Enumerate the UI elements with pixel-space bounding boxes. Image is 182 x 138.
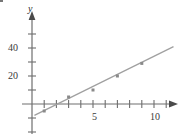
x-axis-arrow-icon xyxy=(169,101,178,108)
data-point xyxy=(43,110,46,113)
best-fit-line xyxy=(34,47,173,116)
y-axis-label: y xyxy=(28,4,32,14)
x-tick-label-5: 5 xyxy=(92,112,97,122)
data-point xyxy=(140,62,143,65)
data-point xyxy=(116,75,119,78)
x-tick-label-10: 10 xyxy=(150,112,160,122)
data-point xyxy=(67,96,70,99)
chart-figure: y 40 20 5 10 xyxy=(0,0,182,138)
y-tick-label-20: 20 xyxy=(8,71,18,81)
y-tick-label-40: 40 xyxy=(8,43,18,53)
data-point xyxy=(92,89,95,92)
